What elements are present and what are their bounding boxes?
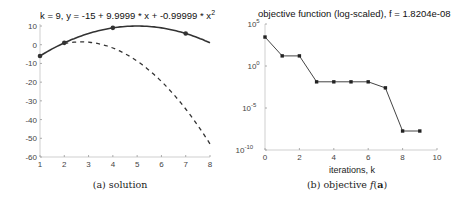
chart-b-caption-math-paren-close: ) — [383, 179, 387, 190]
data-point — [281, 54, 284, 57]
data-point — [315, 80, 318, 83]
x-tick-label: 2 — [62, 160, 67, 169]
chart-a-caption: (a) solution — [93, 179, 148, 190]
x-tick-label: 2 — [297, 153, 302, 162]
chart-b-objective-line — [265, 37, 420, 131]
y-tick-label: -40 — [25, 116, 37, 125]
data-point — [62, 41, 67, 46]
chart-a-dashed-curve — [64, 42, 210, 144]
y-tick-label: 10-10 — [236, 144, 254, 155]
x-tick-label: 8 — [208, 160, 213, 169]
chart-a-title-superscript: 2 — [211, 9, 215, 16]
data-point — [332, 80, 335, 83]
chart-a-title-text: k = 9, y = -15 + 9.9999 * x + -0.99999 *… — [40, 10, 211, 21]
y-tick-label: 10-5 — [242, 102, 257, 113]
y-tick-label: 100 — [247, 60, 260, 71]
figure: k = 9, y = -15 + 9.9999 * x + -0.99999 *… — [0, 0, 464, 205]
data-point — [38, 54, 43, 59]
data-point — [401, 129, 404, 132]
x-tick-label: 3 — [86, 160, 91, 169]
chart-b-x-label: iterations, k — [329, 165, 376, 175]
data-point — [349, 80, 352, 83]
x-tick-label: 1 — [38, 160, 43, 169]
chart-objective: objective function (log-scaled), f = 1.8… — [236, 8, 451, 190]
chart-b-title: objective function (log-scaled), f = 1.8… — [258, 8, 451, 19]
data-point — [298, 54, 301, 57]
chart-b-caption: (b) objective f(a) — [307, 179, 387, 190]
data-point — [384, 86, 387, 89]
x-tick-label: 6 — [159, 160, 164, 169]
x-tick-label: 5 — [135, 160, 140, 169]
data-point — [111, 26, 116, 31]
x-tick-label: 4 — [332, 153, 337, 162]
y-tick-label: 105 — [247, 18, 260, 29]
chart-b-caption-prefix: (b) objective — [307, 179, 370, 190]
chart-a-data-points — [38, 26, 188, 59]
y-tick-label: -10 — [25, 59, 37, 68]
x-tick-label: 7 — [183, 160, 188, 169]
data-point — [418, 129, 421, 132]
chart-solution: k = 9, y = -15 + 9.9999 * x + -0.99999 *… — [25, 9, 215, 190]
x-tick-label: 8 — [400, 153, 405, 162]
data-point — [263, 35, 266, 38]
y-tick-label: 0 — [33, 41, 38, 50]
chart-b-y-ticks: 10510010-510-10 — [236, 18, 267, 155]
y-tick-label: -20 — [25, 78, 37, 87]
x-tick-label: 6 — [366, 153, 371, 162]
chart-a-title: k = 9, y = -15 + 9.9999 * x + -0.99999 *… — [40, 9, 215, 21]
x-tick-label: 10 — [433, 153, 442, 162]
y-tick-label: 10 — [28, 22, 37, 31]
data-point — [367, 80, 370, 83]
data-point — [183, 31, 188, 36]
y-tick-label: -50 — [25, 134, 37, 143]
y-tick-label: -30 — [25, 97, 37, 106]
x-tick-label: 4 — [111, 160, 116, 169]
y-tick-label: -60 — [25, 153, 37, 162]
x-tick-label: 0 — [263, 153, 268, 162]
